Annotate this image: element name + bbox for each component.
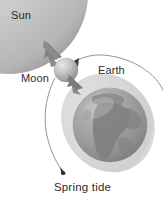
orbit-arrowhead-lower [60,167,66,175]
label-earth: Earth [98,65,125,76]
caption-spring-tide: Spring tide [0,181,165,193]
earth-body [73,87,147,162]
label-sun: Sun [11,10,31,21]
label-moon: Moon [21,73,49,84]
scene-graphics [0,0,165,202]
spring-tide-diagram: Sun Moon Earth Spring tide [0,0,165,202]
moon-body [54,58,78,82]
